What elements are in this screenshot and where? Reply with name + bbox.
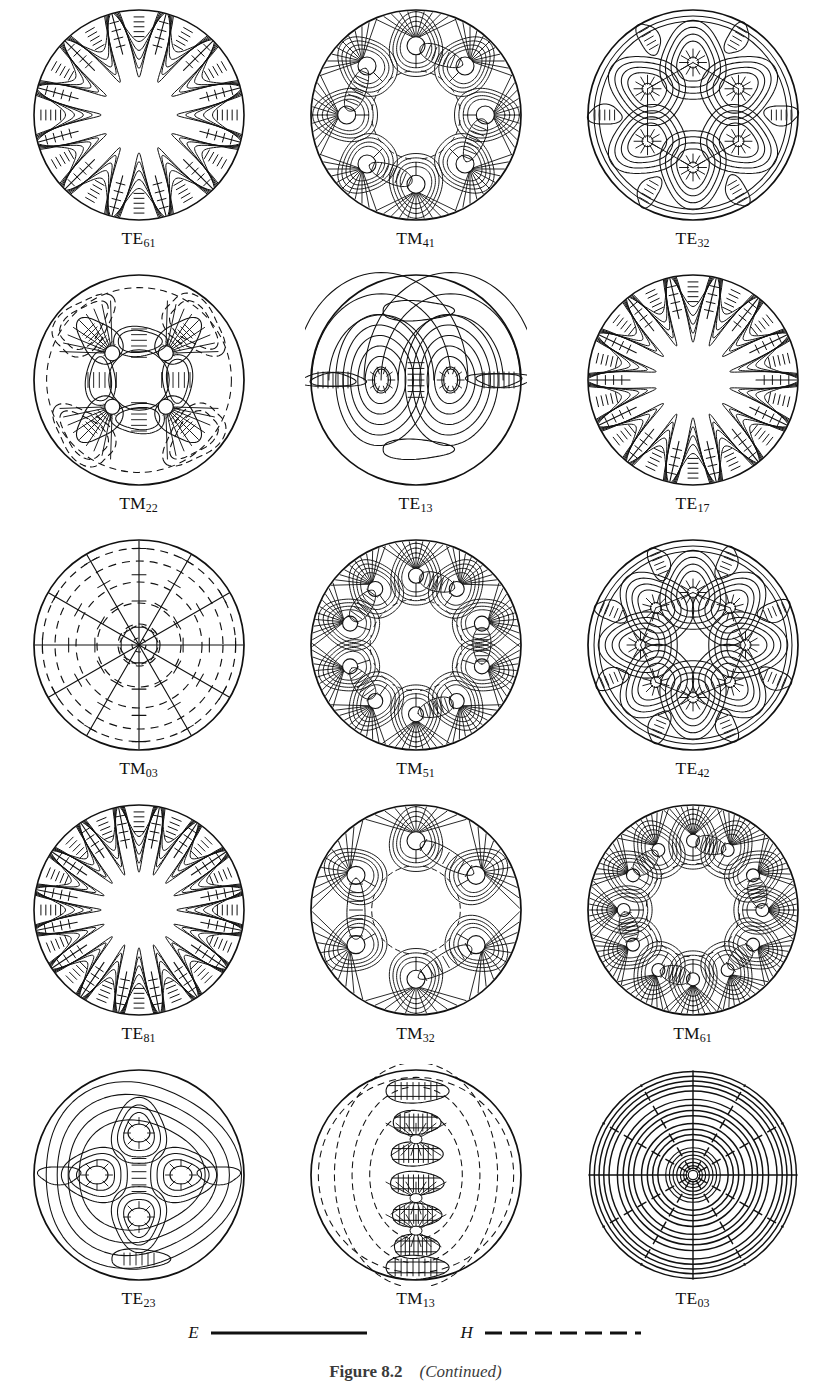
mode-label-family: TM	[396, 228, 423, 248]
mode-label-indices: 41	[423, 236, 435, 250]
caption-number: Figure 8.2	[329, 1362, 402, 1381]
mode-field-plot-te42	[582, 534, 804, 756]
mode-field-plot-tm22	[28, 269, 250, 491]
mode-cell-tm03: TM03	[0, 530, 277, 795]
mode-label-tm03: TM03	[119, 758, 158, 781]
mode-cell-te17: TE17	[554, 265, 831, 530]
mode-label-family: TE	[676, 228, 698, 248]
mode-label-te13: TE13	[399, 493, 433, 516]
mode-label-te17: TE17	[676, 493, 710, 516]
mode-field-plot-te13	[305, 269, 527, 491]
mode-cell-tm13: TM13	[277, 1060, 554, 1325]
mode-label-indices: 81	[143, 1031, 155, 1045]
mode-cell-tm61: TM61	[554, 795, 831, 1060]
legend-symbol-e: E	[188, 1323, 198, 1343]
mode-label-indices: 03	[146, 766, 158, 780]
mode-cell-te23: TE23	[0, 1060, 277, 1325]
mode-cell-te61: TE61	[0, 0, 277, 265]
mode-label-indices: 13	[423, 1296, 435, 1310]
legend-line-solid	[209, 1329, 369, 1337]
mode-field-plot-te17	[582, 269, 804, 491]
caption-continued: (Continued)	[420, 1362, 502, 1381]
mode-label-tm41: TM41	[396, 228, 435, 251]
figure-legend: E H	[0, 1316, 831, 1350]
mode-label-te32: TE32	[676, 228, 710, 251]
mode-label-family: TM	[396, 758, 423, 778]
mode-cell-tm51: TM51	[277, 530, 554, 795]
mode-label-family: TE	[676, 493, 698, 513]
mode-field-plot-te23	[28, 1064, 250, 1286]
mode-label-family: TE	[122, 1023, 144, 1043]
mode-label-indices: 42	[697, 766, 709, 780]
mode-field-plot-te81	[28, 799, 250, 1021]
mode-field-plot-tm51	[305, 534, 527, 756]
mode-cell-te13: TE13	[277, 265, 554, 530]
mode-cell-tm22: TM22	[0, 265, 277, 530]
mode-field-plot-tm32	[305, 799, 527, 1021]
mode-label-indices: 51	[423, 766, 435, 780]
mode-label-indices: 23	[143, 1296, 155, 1310]
mode-label-family: TE	[676, 758, 698, 778]
mode-label-indices: 22	[146, 501, 158, 515]
legend-entry-e: E	[188, 1323, 368, 1343]
mode-label-tm61: TM61	[673, 1023, 712, 1046]
mode-label-indices: 03	[697, 1296, 709, 1310]
mode-pattern-grid: TE61TM41TE32TM22TE13TE17TM03TM51TE42TE81…	[0, 0, 831, 1325]
mode-field-plot-tm61	[582, 799, 804, 1021]
mode-label-te81: TE81	[122, 1023, 156, 1046]
mode-cell-te32: TE32	[554, 0, 831, 265]
legend-entry-h: H	[461, 1323, 643, 1343]
mode-label-te03: TE03	[676, 1288, 710, 1311]
mode-field-plot-te61	[28, 4, 250, 226]
mode-label-family: TM	[396, 1023, 423, 1043]
mode-label-tm13: TM13	[396, 1288, 435, 1311]
mode-cell-tm41: TM41	[277, 0, 554, 265]
mode-field-plot-te03	[582, 1064, 804, 1286]
mode-label-indices: 17	[697, 501, 709, 515]
figure-caption: Figure 8.2 (Continued)	[0, 1362, 831, 1382]
mode-label-family: TM	[119, 493, 146, 513]
mode-label-family: TE	[399, 493, 421, 513]
mode-label-family: TE	[122, 228, 144, 248]
mode-label-indices: 61	[700, 1031, 712, 1045]
mode-label-te61: TE61	[122, 228, 156, 251]
mode-label-te23: TE23	[122, 1288, 156, 1311]
mode-label-indices: 13	[420, 501, 432, 515]
mode-cell-te03: TE03	[554, 1060, 831, 1325]
mode-field-plot-tm03	[28, 534, 250, 756]
mode-label-family: TM	[119, 758, 146, 778]
mode-label-tm22: TM22	[119, 493, 158, 516]
legend-line-dashed	[483, 1329, 643, 1337]
mode-cell-te42: TE42	[554, 530, 831, 795]
mode-label-indices: 32	[423, 1031, 435, 1045]
mode-label-indices: 61	[143, 236, 155, 250]
mode-label-te42: TE42	[676, 758, 710, 781]
mode-label-tm51: TM51	[396, 758, 435, 781]
mode-label-tm32: TM32	[396, 1023, 435, 1046]
mode-field-plot-tm41	[305, 4, 527, 226]
figure-sheet: TE61TM41TE32TM22TE13TE17TM03TM51TE42TE81…	[0, 0, 831, 1384]
mode-cell-tm32: TM32	[277, 795, 554, 1060]
mode-label-family: TE	[676, 1288, 698, 1308]
mode-label-family: TE	[122, 1288, 144, 1308]
mode-field-plot-tm13	[305, 1064, 527, 1286]
mode-cell-te81: TE81	[0, 795, 277, 1060]
mode-label-family: TM	[396, 1288, 423, 1308]
legend-symbol-h: H	[461, 1323, 473, 1343]
mode-label-family: TM	[673, 1023, 700, 1043]
mode-field-plot-te32	[582, 4, 804, 226]
mode-label-indices: 32	[697, 236, 709, 250]
